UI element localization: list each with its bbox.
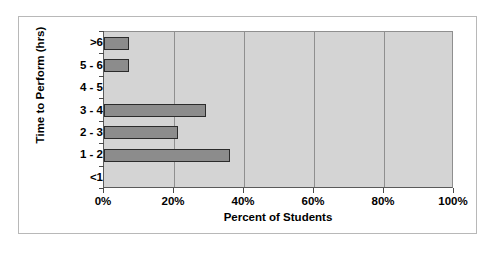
x-axis-title: Percent of Students bbox=[103, 211, 453, 223]
x-axis-tick-mark bbox=[453, 188, 454, 193]
x-axis-tick-label: 80% bbox=[371, 195, 394, 207]
x-axis-tick-mark bbox=[243, 188, 244, 193]
x-axis-tick-mark bbox=[173, 188, 174, 193]
x-axis-tick-label: 0% bbox=[95, 195, 112, 207]
gridline-vertical bbox=[314, 32, 315, 187]
y-axis-tick-mark bbox=[99, 143, 104, 144]
bar bbox=[104, 149, 230, 162]
x-axis-tick-mark bbox=[383, 188, 384, 193]
y-axis-tick-label: <1 bbox=[43, 171, 103, 183]
x-axis-tick-label: 20% bbox=[161, 195, 184, 207]
x-axis-tick-label: 60% bbox=[301, 195, 324, 207]
y-axis-tick-mark bbox=[99, 98, 104, 99]
bar bbox=[104, 37, 129, 50]
y-axis-tick-mark bbox=[99, 53, 104, 54]
y-axis-tick-label: 1 - 2 bbox=[43, 148, 103, 160]
y-axis-tick-label: 3 - 4 bbox=[43, 104, 103, 116]
y-axis-tick-mark bbox=[99, 166, 104, 167]
x-axis-tick-mark bbox=[313, 188, 314, 193]
x-axis-tick-label: 100% bbox=[438, 195, 467, 207]
x-axis-tick-label: 40% bbox=[231, 195, 254, 207]
gridline-vertical bbox=[244, 32, 245, 187]
y-axis-tick-label: 5 - 6 bbox=[43, 59, 103, 71]
chart-figure: Time to Perform (hrs) >65 - 64 - 53 - 42… bbox=[18, 16, 477, 234]
bar bbox=[104, 104, 206, 117]
y-axis-tick-labels: >65 - 64 - 53 - 42 - 31 - 2<1 bbox=[43, 31, 103, 188]
gridline-vertical bbox=[384, 32, 385, 187]
y-axis-tick-mark bbox=[99, 76, 104, 77]
bar bbox=[104, 59, 129, 72]
bar bbox=[104, 126, 178, 139]
plot-area bbox=[103, 31, 453, 188]
y-axis-tick-label: 2 - 3 bbox=[43, 126, 103, 138]
y-axis-tick-label: >6 bbox=[43, 36, 103, 48]
y-axis-tick-label: 4 - 5 bbox=[43, 81, 103, 93]
x-axis-tick-mark bbox=[103, 188, 104, 193]
y-axis-tick-mark bbox=[99, 121, 104, 122]
y-axis-tick-mark bbox=[99, 31, 104, 32]
